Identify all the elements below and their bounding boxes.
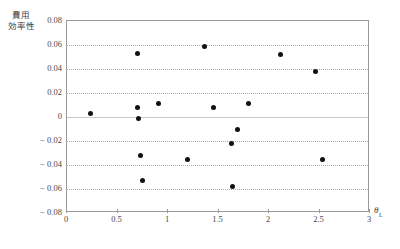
data-point bbox=[235, 127, 240, 132]
gridline bbox=[67, 45, 368, 46]
y-axis-tick-labels: 0.080.060.040.020− 0.02− 0.04− 0.06− 0.0… bbox=[0, 20, 62, 212]
y-tick-label: − 0.06 bbox=[2, 184, 62, 193]
plot-area bbox=[66, 20, 369, 212]
scatter-chart-figure: 費用 効率性 0.080.060.040.020− 0.02− 0.04− 0.… bbox=[0, 0, 400, 249]
y-tick-label: − 0.02 bbox=[2, 136, 62, 145]
x-tick-label: 2 bbox=[248, 214, 288, 225]
data-point bbox=[135, 51, 140, 56]
chart-title-faint bbox=[70, 0, 330, 7]
x-tick-mark bbox=[369, 209, 370, 213]
x-tick-label: 0.5 bbox=[97, 214, 137, 225]
x-tick-mark bbox=[268, 209, 269, 213]
data-point bbox=[320, 157, 325, 162]
data-point bbox=[246, 101, 251, 106]
x-axis-tick-labels: 00.511.522.53 bbox=[66, 214, 369, 228]
y-tick-label: − 0.04 bbox=[2, 160, 62, 169]
gridline bbox=[67, 69, 368, 70]
y-tick-label: 0.06 bbox=[2, 40, 62, 49]
x-tick-mark bbox=[117, 209, 118, 213]
y-tick-label: 0.04 bbox=[2, 64, 62, 73]
data-point bbox=[202, 44, 207, 49]
y-tick-label: 0.08 bbox=[2, 16, 62, 25]
x-tick-label: 0 bbox=[46, 214, 86, 225]
data-point bbox=[211, 105, 216, 110]
gridline bbox=[67, 165, 368, 166]
data-point bbox=[138, 153, 143, 158]
x-tick-label: 2.5 bbox=[299, 214, 339, 225]
gridline bbox=[67, 93, 368, 94]
data-point bbox=[156, 101, 161, 106]
gridline bbox=[67, 189, 368, 190]
x-axis-title: θL bbox=[374, 205, 382, 219]
y-tick-label: 0 bbox=[2, 112, 62, 121]
x-tick-mark bbox=[218, 209, 219, 213]
x-tick-label: 1 bbox=[147, 214, 187, 225]
data-point bbox=[140, 178, 145, 183]
x-axis-title-base: θ bbox=[374, 205, 378, 215]
x-axis-title-subscript: L bbox=[379, 212, 383, 218]
gridline bbox=[67, 117, 368, 118]
data-point bbox=[88, 111, 93, 116]
data-point bbox=[229, 141, 234, 146]
data-point bbox=[135, 105, 140, 110]
data-point bbox=[136, 116, 141, 121]
x-tick-mark bbox=[167, 209, 168, 213]
data-point bbox=[278, 52, 283, 57]
x-tick-label: 3 bbox=[349, 214, 389, 225]
data-point bbox=[185, 157, 190, 162]
data-point bbox=[313, 69, 318, 74]
gridline bbox=[67, 141, 368, 142]
x-tick-mark bbox=[66, 209, 67, 213]
x-tick-mark bbox=[319, 209, 320, 213]
y-tick-label: 0.02 bbox=[2, 88, 62, 97]
x-tick-label: 1.5 bbox=[198, 214, 238, 225]
